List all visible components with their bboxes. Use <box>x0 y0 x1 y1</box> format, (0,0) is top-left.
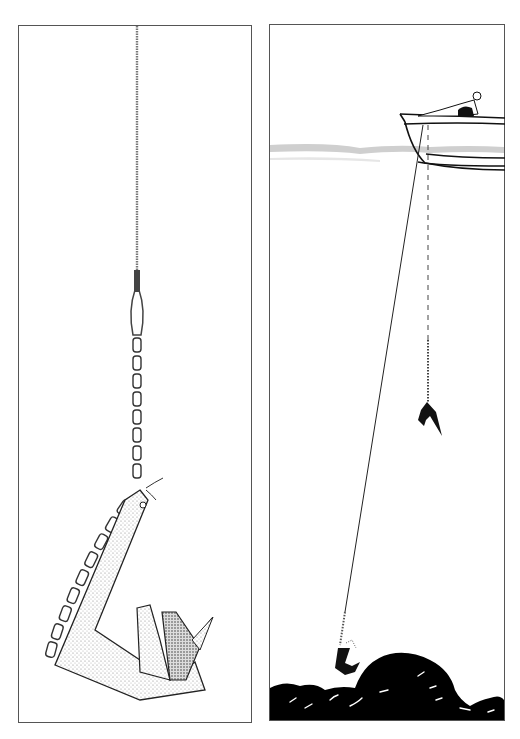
boat <box>400 114 505 170</box>
anchor-rode-slanted <box>340 125 423 645</box>
anchor-on-seabed <box>335 640 360 675</box>
anchor-fluke <box>137 605 213 680</box>
hanging-anchor <box>418 402 442 436</box>
person-in-boat <box>418 92 481 116</box>
rocky-seabed <box>270 653 504 720</box>
rope-splice-thimble <box>131 290 143 335</box>
rope-whipping-tail <box>146 478 163 500</box>
rope <box>134 26 140 292</box>
water-surface <box>270 144 504 162</box>
illustration-canvas <box>0 0 520 739</box>
